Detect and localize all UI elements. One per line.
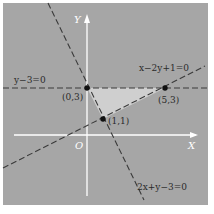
label-line-x-minus-2y-plus-1: x−2y+1=0 xyxy=(139,63,189,73)
x-axis-label: X xyxy=(187,140,196,151)
coordinate-diagram: y−3=0 x−2y+1=0 2x+y−3=0 (0,3) (5,3) (1,1… xyxy=(0,0,214,214)
label-point-0-3: (0,3) xyxy=(62,92,83,102)
label-point-5-3: (5,3) xyxy=(158,95,179,105)
point-5-3 xyxy=(162,85,167,90)
origin-label: O xyxy=(75,140,83,151)
label-line-2x-plus-y-minus-3: 2x+y−3=0 xyxy=(137,182,187,192)
label-line-y-minus-3: y−3=0 xyxy=(13,75,46,85)
point-0-3 xyxy=(84,85,89,90)
point-1-1 xyxy=(100,116,105,121)
label-point-1-1: (1,1) xyxy=(108,116,129,126)
